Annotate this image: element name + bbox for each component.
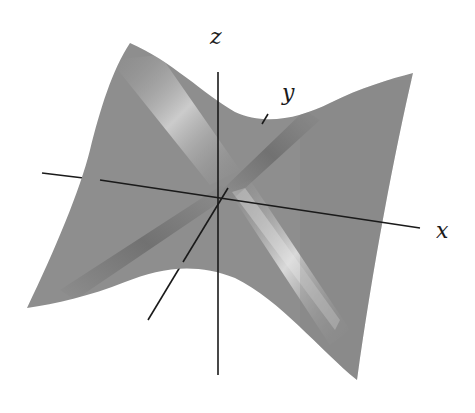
saddle-surface-figure: z y x — [0, 0, 475, 413]
z-axis-label: z — [210, 26, 222, 48]
saddle-surface — [0, 0, 475, 413]
saddle-surface-plot — [0, 0, 475, 413]
y-axis-label: y — [282, 82, 294, 104]
x-axis-label: x — [436, 220, 448, 242]
